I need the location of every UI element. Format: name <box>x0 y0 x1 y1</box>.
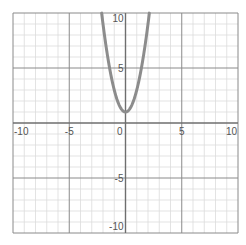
y-tick-label: -10 <box>109 221 124 232</box>
x-tick-label: 0 <box>117 126 123 137</box>
y-tick-label: 5 <box>118 63 124 74</box>
y-tick-label: 10 <box>112 13 124 24</box>
x-tick-label: 10 <box>226 126 238 137</box>
x-tick-label: -10 <box>14 126 29 137</box>
graph-plot: -10-50510105-5-10 <box>0 0 246 245</box>
x-tick-label: -5 <box>65 126 74 137</box>
y-tick-label: -5 <box>115 173 124 184</box>
x-tick-label: 5 <box>179 126 185 137</box>
